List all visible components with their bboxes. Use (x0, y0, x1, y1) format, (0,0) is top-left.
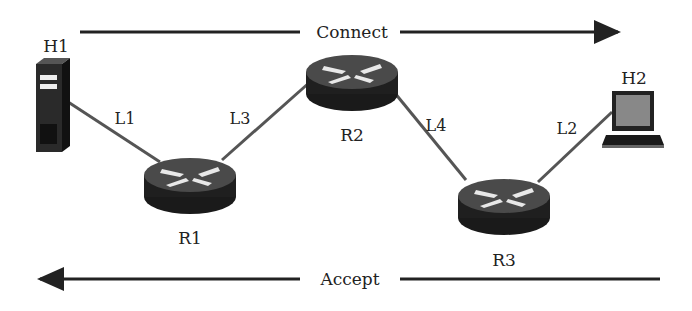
node-label-r3: R3 (492, 250, 516, 270)
link-label-l1: L1 (115, 109, 136, 128)
link-l4 (394, 92, 466, 180)
node-label-h1: H1 (43, 36, 69, 56)
node-label-h2: H2 (621, 68, 647, 88)
laptop-icon (602, 91, 664, 148)
node-label-r1: R1 (178, 228, 202, 248)
link-label-l3: L3 (230, 109, 251, 128)
router-icon (144, 158, 236, 214)
router-icon (458, 179, 550, 235)
link-l1 (62, 98, 160, 162)
server-icon (36, 58, 70, 152)
network-diagram: Connect Accept L1 L3 L4 L2 H1 R1 R2 R3 (0, 0, 692, 311)
node-label-r2: R2 (340, 125, 364, 145)
accept-label: Accept (319, 269, 379, 289)
link-label-l2: L2 (557, 119, 578, 138)
router-icon (306, 55, 398, 111)
connect-label: Connect (316, 22, 388, 42)
link-label-l4: L4 (426, 116, 447, 135)
